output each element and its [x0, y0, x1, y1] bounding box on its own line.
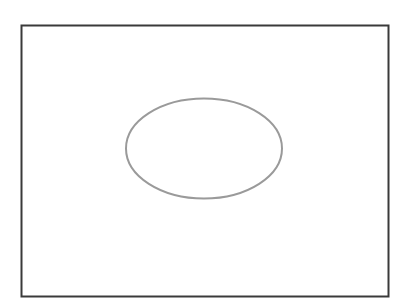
- frame-rectangle: [22, 26, 389, 297]
- diagram-svg: [0, 0, 408, 305]
- drawing-canvas: [0, 0, 408, 305]
